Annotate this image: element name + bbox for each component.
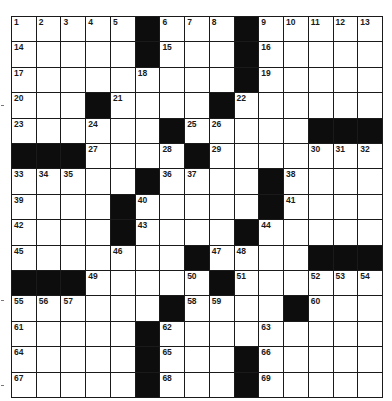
- grid-cell[interactable]: [185, 195, 209, 219]
- grid-cell[interactable]: [358, 93, 382, 117]
- grid-cell[interactable]: 68: [160, 373, 184, 397]
- grid-cell[interactable]: [37, 347, 61, 371]
- grid-cell[interactable]: [37, 373, 61, 397]
- grid-cell[interactable]: 43: [136, 220, 160, 244]
- grid-cell[interactable]: [235, 195, 259, 219]
- grid-cell[interactable]: [358, 373, 382, 397]
- grid-cell[interactable]: 61: [12, 322, 36, 346]
- grid-cell[interactable]: 14: [12, 42, 36, 66]
- grid-cell[interactable]: [185, 93, 209, 117]
- grid-cell[interactable]: 24: [86, 119, 110, 143]
- grid-cell[interactable]: 55: [12, 296, 36, 320]
- grid-cell[interactable]: [185, 373, 209, 397]
- grid-cell[interactable]: 17: [12, 68, 36, 92]
- grid-cell[interactable]: [86, 373, 110, 397]
- grid-cell[interactable]: [210, 68, 234, 92]
- grid-cell[interactable]: [309, 42, 333, 66]
- grid-cell[interactable]: [358, 347, 382, 371]
- grid-cell[interactable]: 53: [334, 271, 358, 295]
- grid-cell[interactable]: [111, 322, 135, 346]
- grid-cell[interactable]: [111, 119, 135, 143]
- grid-cell[interactable]: 46: [111, 246, 135, 270]
- grid-cell[interactable]: 21: [111, 93, 135, 117]
- grid-cell[interactable]: 25: [185, 119, 209, 143]
- grid-cell[interactable]: [61, 220, 85, 244]
- grid-cell[interactable]: [86, 220, 110, 244]
- grid-cell[interactable]: [86, 322, 110, 346]
- grid-cell[interactable]: [111, 68, 135, 92]
- grid-cell[interactable]: [160, 246, 184, 270]
- grid-cell[interactable]: [210, 42, 234, 66]
- grid-cell[interactable]: [136, 271, 160, 295]
- grid-cell[interactable]: [160, 271, 184, 295]
- grid-cell[interactable]: [210, 169, 234, 193]
- grid-cell[interactable]: [37, 195, 61, 219]
- grid-cell[interactable]: 44: [259, 220, 283, 244]
- grid-cell[interactable]: [136, 296, 160, 320]
- grid-cell[interactable]: [334, 195, 358, 219]
- grid-cell[interactable]: [37, 119, 61, 143]
- grid-cell[interactable]: [235, 296, 259, 320]
- grid-cell[interactable]: [111, 373, 135, 397]
- grid-cell[interactable]: [111, 296, 135, 320]
- grid-cell[interactable]: [160, 68, 184, 92]
- grid-cell[interactable]: [61, 347, 85, 371]
- grid-cell[interactable]: 30: [309, 144, 333, 168]
- grid-cell[interactable]: [259, 144, 283, 168]
- grid-cell[interactable]: 47: [210, 246, 234, 270]
- grid-cell[interactable]: [210, 220, 234, 244]
- grid-cell[interactable]: [259, 93, 283, 117]
- grid-cell[interactable]: 12: [334, 17, 358, 41]
- grid-cell[interactable]: 18: [136, 68, 160, 92]
- grid-cell[interactable]: [309, 195, 333, 219]
- grid-cell[interactable]: 9: [259, 17, 283, 41]
- grid-cell[interactable]: [309, 169, 333, 193]
- grid-cell[interactable]: [334, 373, 358, 397]
- grid-cell[interactable]: 33: [12, 169, 36, 193]
- grid-cell[interactable]: [185, 322, 209, 346]
- grid-cell[interactable]: [61, 119, 85, 143]
- grid-cell[interactable]: [309, 93, 333, 117]
- grid-cell[interactable]: [37, 42, 61, 66]
- grid-cell[interactable]: [61, 195, 85, 219]
- grid-cell[interactable]: [334, 93, 358, 117]
- grid-cell[interactable]: [61, 93, 85, 117]
- grid-cell[interactable]: [86, 195, 110, 219]
- grid-cell[interactable]: 62: [160, 322, 184, 346]
- grid-cell[interactable]: [358, 195, 382, 219]
- grid-cell[interactable]: 60: [309, 296, 333, 320]
- grid-cell[interactable]: 51: [235, 271, 259, 295]
- grid-cell[interactable]: 2: [37, 17, 61, 41]
- grid-cell[interactable]: 34: [37, 169, 61, 193]
- grid-cell[interactable]: 58: [185, 296, 209, 320]
- grid-cell[interactable]: 26: [210, 119, 234, 143]
- grid-cell[interactable]: [61, 246, 85, 270]
- grid-cell[interactable]: [37, 93, 61, 117]
- grid-cell[interactable]: 66: [259, 347, 283, 371]
- grid-cell[interactable]: [309, 347, 333, 371]
- grid-cell[interactable]: [334, 42, 358, 66]
- grid-cell[interactable]: 54: [358, 271, 382, 295]
- grid-cell[interactable]: [358, 296, 382, 320]
- grid-cell[interactable]: 49: [86, 271, 110, 295]
- grid-cell[interactable]: [185, 347, 209, 371]
- grid-cell[interactable]: [210, 195, 234, 219]
- grid-cell[interactable]: [358, 220, 382, 244]
- grid-cell[interactable]: [111, 271, 135, 295]
- grid-cell[interactable]: 23: [12, 119, 36, 143]
- grid-cell[interactable]: [334, 169, 358, 193]
- grid-cell[interactable]: [259, 271, 283, 295]
- grid-cell[interactable]: 6: [160, 17, 184, 41]
- grid-cell[interactable]: [334, 322, 358, 346]
- grid-cell[interactable]: 41: [284, 195, 308, 219]
- grid-cell[interactable]: [284, 373, 308, 397]
- grid-cell[interactable]: [284, 220, 308, 244]
- grid-cell[interactable]: 67: [12, 373, 36, 397]
- grid-cell[interactable]: 39: [12, 195, 36, 219]
- grid-cell[interactable]: [37, 68, 61, 92]
- grid-cell[interactable]: 32: [358, 144, 382, 168]
- grid-cell[interactable]: 20: [12, 93, 36, 117]
- grid-cell[interactable]: 37: [185, 169, 209, 193]
- grid-cell[interactable]: [111, 144, 135, 168]
- grid-cell[interactable]: 8: [210, 17, 234, 41]
